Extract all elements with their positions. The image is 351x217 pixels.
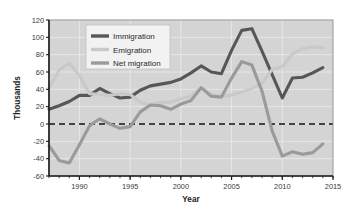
y-tick-label: 120	[32, 16, 44, 25]
legend-label-emigration: Emigration	[113, 46, 151, 55]
legend-label-immigration: Immigration	[113, 32, 155, 41]
y-tick-label: 80	[36, 50, 44, 59]
y-tick-label: -40	[33, 154, 44, 163]
y-tick-label: 60	[36, 68, 44, 77]
y-tick-label: 0	[40, 120, 44, 129]
x-tick-label: 2015	[325, 182, 341, 191]
migration-line-chart: -60-40-200204060801001201990199520002005…	[0, 0, 351, 217]
y-tick-label: 20	[36, 102, 44, 111]
x-tick-label: 2005	[223, 182, 239, 191]
x-tick-label: 1990	[71, 182, 87, 191]
y-tick-label: -60	[33, 172, 44, 181]
y-tick-label: 100	[32, 33, 44, 42]
y-tick-label: -20	[33, 137, 44, 146]
x-tick-label: 1995	[122, 182, 138, 191]
y-tick-label: 40	[36, 85, 44, 94]
chart-canvas: -60-40-200204060801001201990199520002005…	[0, 0, 351, 217]
x-tick-label: 2010	[274, 182, 290, 191]
y-axis-title: Thousands	[13, 76, 22, 120]
x-tick-label: 2000	[173, 182, 189, 191]
legend-label-net-migration: Net migration	[113, 59, 161, 68]
x-axis-title: Year	[182, 195, 200, 204]
